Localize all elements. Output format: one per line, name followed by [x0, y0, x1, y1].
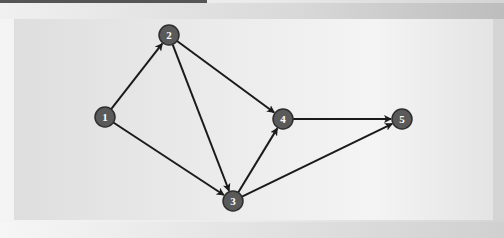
node-1: 1 [95, 107, 115, 127]
edge-3-to-5 [242, 124, 392, 197]
node-label: 3 [230, 195, 236, 207]
node-label: 2 [166, 29, 172, 41]
node-4: 4 [273, 109, 293, 129]
node-label: 1 [102, 111, 108, 123]
node-5: 5 [392, 109, 412, 129]
edge-1-to-2 [111, 44, 162, 109]
node-2: 2 [159, 25, 179, 45]
node-3: 3 [223, 191, 243, 211]
edge-2-to-3 [173, 44, 229, 190]
edge-group [111, 41, 392, 197]
node-label: 4 [280, 113, 286, 125]
directed-graph: 12345 [0, 0, 504, 238]
edge-2-to-4 [177, 41, 274, 113]
figure-canvas: 12345 [0, 0, 504, 238]
node-label: 5 [399, 113, 405, 125]
